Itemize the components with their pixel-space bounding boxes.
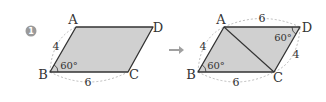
angle-label-d: 60° — [274, 32, 292, 43]
side-length-bc: 6 — [85, 76, 92, 89]
angle-label-b: 60° — [60, 60, 78, 71]
vertex-label-d: D — [302, 20, 312, 35]
parallelogram-diagram: 1 A D B C 4 6 60° — [0, 0, 326, 102]
right-parallelogram-figure: A D B C 6 4 6 4 60° 60° — [186, 12, 312, 89]
problem-number-badge: 1 — [26, 26, 37, 37]
problem-number: 1 — [28, 27, 34, 36]
vertex-label-c: C — [129, 67, 139, 82]
vertex-label-b: B — [38, 67, 48, 82]
right-arrow-icon — [169, 46, 184, 54]
vertex-label-d: D — [153, 20, 163, 35]
vertex-label-a: A — [215, 12, 226, 27]
vertex-label-c: C — [273, 70, 283, 85]
angle-label-b: 60° — [207, 60, 225, 71]
vertex-label-b: B — [186, 67, 196, 82]
side-length-ab: 4 — [53, 40, 60, 53]
side-length-ad: 6 — [259, 12, 266, 25]
side-length-bc: 6 — [233, 76, 240, 89]
left-parallelogram-figure: A D B C 4 6 60° — [38, 12, 163, 89]
vertex-label-a: A — [67, 12, 78, 27]
side-length-cd: 4 — [293, 48, 300, 61]
side-length-ab: 4 — [200, 40, 207, 53]
